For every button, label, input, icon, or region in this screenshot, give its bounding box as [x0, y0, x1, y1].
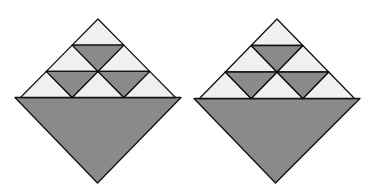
diagram-canvas — [0, 0, 370, 191]
small-light-triangle — [72, 19, 124, 45]
large-dark-triangle — [194, 99, 360, 184]
figure-left — [15, 19, 181, 183]
large-dark-triangle — [15, 98, 181, 184]
figure-right — [194, 19, 360, 183]
small-light-triangle — [251, 19, 303, 46]
